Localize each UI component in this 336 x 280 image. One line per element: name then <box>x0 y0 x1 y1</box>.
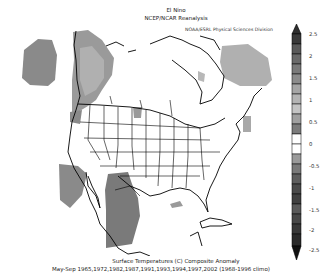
caption-line2: May-Sep 1965,1972,1982,1987,1991,1993,19… <box>26 266 296 272</box>
state-borders <box>80 96 220 196</box>
colorbar-label: -0.5 <box>309 163 319 169</box>
colorbar-label: -2 <box>309 227 314 233</box>
colorbar-label: -1 <box>309 185 314 191</box>
colorbar-label: -2.5 <box>309 247 319 253</box>
colorbar-label: 2.5 <box>309 31 317 37</box>
colorbar-swatches <box>290 24 310 264</box>
colorbar-label: 0 <box>309 141 312 147</box>
anomaly-map <box>0 0 290 256</box>
colorbar-label: 1 <box>309 97 312 103</box>
colorbar-label: 1.5 <box>309 75 317 81</box>
colorbar-label: 2 <box>309 53 312 59</box>
colorbar: 2.5 2 1.5 1 0.5 0 -0.5 -1 -1.5 -2 -2.5 <box>290 24 336 264</box>
colorbar-label: -1.5 <box>309 207 319 213</box>
colorbar-label: 0.5 <box>309 119 317 125</box>
caption-line1: Surface Temperatures (C) Composite Anoma… <box>26 258 326 264</box>
